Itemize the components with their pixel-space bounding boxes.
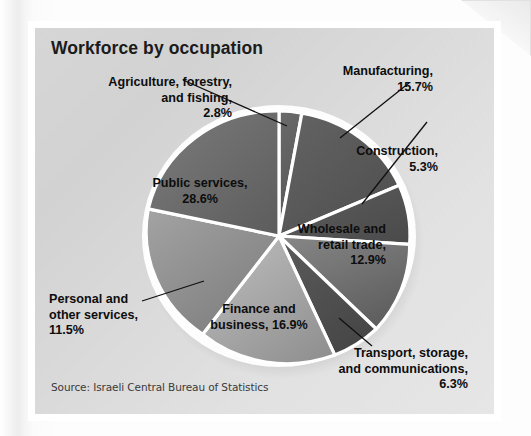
pie-label-finance: Finance and business, 16.9% <box>195 302 323 333</box>
pie-label-public-services: Public services, 28.6% <box>125 176 275 207</box>
chart-panel: Workforce by occupation <box>35 28 494 414</box>
pie-label-transport: Transport, storage, and communications, … <box>302 346 468 393</box>
source-note: Source: Israeli Central Bureau of Statis… <box>51 381 268 393</box>
pie-label-manufacturing: Manufacturing, 15.7% <box>323 64 433 95</box>
pie-label-wholesale-retail: Wholesale and retail trade, 12.9% <box>278 222 386 269</box>
pie-label-construction: Construction, 5.3% <box>335 144 438 175</box>
pie-label-agriculture: Agriculture, forestry, and fishing, 2.8% <box>87 75 232 122</box>
pie-label-personal-services: Personal and other services, 11.5% <box>49 292 173 339</box>
chart-frame: Workforce by occupation <box>28 21 501 421</box>
page-background: Workforce by occupation <box>0 0 531 436</box>
